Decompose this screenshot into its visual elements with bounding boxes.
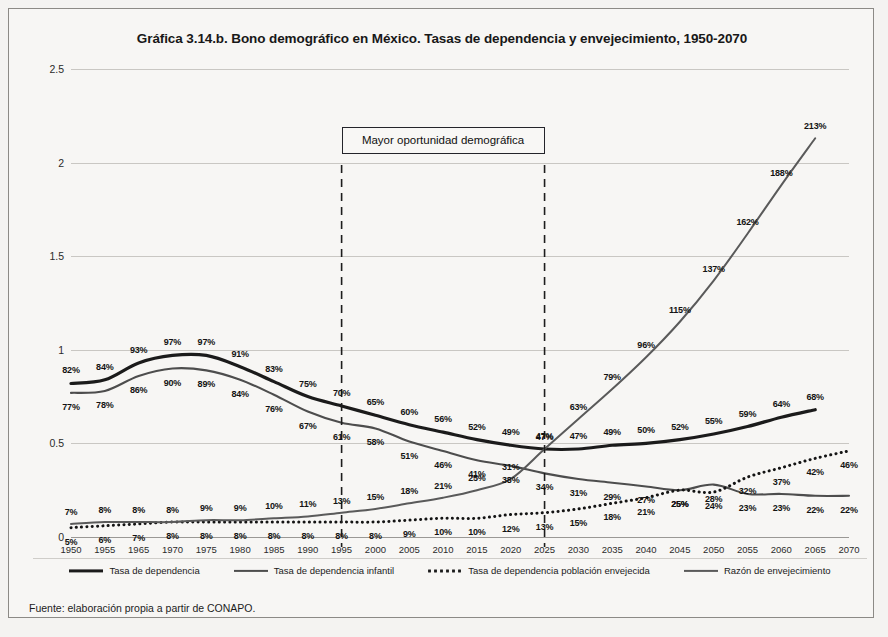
data-point-label: 67%: [299, 421, 316, 431]
data-point-label: 18%: [603, 512, 620, 522]
data-point-label: 37%: [773, 477, 790, 487]
data-point-label: 13%: [333, 496, 350, 506]
data-point-label: 96%: [637, 340, 654, 350]
y-axis-tick-label: 0.5: [49, 437, 64, 449]
data-point-label: 188%: [770, 168, 792, 178]
data-point-label: 82%: [62, 365, 79, 375]
data-point-label: 49%: [502, 427, 519, 437]
figure-frame: Gráfica 3.14.b. Bono demográfico en Méxi…: [8, 8, 874, 618]
source-note: Fuente: elaboración propia a partir de C…: [29, 602, 255, 614]
chart-legend: Tasa de dependenciaTasa de dependencia i…: [17, 565, 883, 576]
data-point-label: 12%: [502, 524, 519, 534]
gridline: [71, 537, 849, 538]
y-axis-tick-label: 1: [58, 344, 64, 356]
data-point-label: 97%: [198, 337, 215, 347]
data-point-label: 8%: [99, 505, 112, 515]
legend-divider: [33, 558, 867, 559]
data-point-label: 65%: [367, 397, 384, 407]
data-point-label: 8%: [234, 531, 247, 541]
data-point-label: 89%: [198, 379, 215, 389]
data-point-label: 93%: [130, 345, 147, 355]
y-axis-tick-label: 2: [58, 157, 64, 169]
data-point-label: 9%: [200, 503, 213, 513]
data-point-label: 10%: [468, 527, 485, 537]
data-point-label: 10%: [265, 501, 282, 511]
data-point-label: 42%: [806, 467, 823, 477]
data-point-label: 29%: [603, 492, 620, 502]
data-point-label: 55%: [705, 416, 722, 426]
data-point-label: 21%: [434, 481, 451, 491]
annotation-box: Mayor oportunidad demográfica: [342, 127, 545, 154]
data-point-label: 7%: [65, 507, 78, 517]
data-point-label: 64%: [773, 399, 790, 409]
x-axis-tick-label: 2000: [365, 544, 386, 555]
data-point-label: 25%: [468, 473, 485, 483]
data-point-label: 18%: [401, 486, 418, 496]
chart-title: Gráfica 3.14.b. Bono demográfico en Méxi…: [9, 31, 875, 46]
x-axis-tick-label: 1955: [94, 544, 115, 555]
data-point-label: 84%: [96, 362, 113, 372]
data-point-label: 84%: [231, 389, 248, 399]
legend-swatch-icon: [69, 566, 103, 576]
data-point-label: 59%: [739, 409, 756, 419]
data-point-label: 137%: [703, 264, 725, 274]
data-point-label: 46%: [840, 460, 857, 470]
legend-swatch-icon: [684, 566, 718, 576]
data-point-label: 86%: [130, 385, 147, 395]
data-point-label: 75%: [299, 379, 316, 389]
data-point-label: 8%: [200, 531, 213, 541]
legend-item-label: Tasa de dependencia población envejecida: [468, 565, 650, 576]
data-point-label: 46%: [434, 460, 451, 470]
legend-swatch-icon: [234, 566, 268, 576]
x-axis-tick-label: 2015: [466, 544, 487, 555]
legend-item-label: Razón de envejecimiento: [724, 565, 831, 576]
x-axis-tick-label: 2055: [737, 544, 758, 555]
data-point-label: 34%: [536, 482, 553, 492]
data-point-label: 8%: [268, 531, 281, 541]
data-point-label: 8%: [132, 505, 145, 515]
x-axis-tick-label: 2040: [635, 544, 656, 555]
data-point-label: 31%: [502, 462, 519, 472]
x-axis-tick-label: 1985: [263, 544, 284, 555]
x-axis-tick-label: 2060: [771, 544, 792, 555]
data-point-label: 90%: [164, 378, 181, 388]
data-point-label: 21%: [637, 507, 654, 517]
data-point-label: 47%: [536, 432, 553, 442]
x-axis-tick-label: 2065: [805, 544, 826, 555]
x-axis-tick-label: 1965: [128, 544, 149, 555]
data-point-label: 9%: [403, 529, 416, 539]
data-point-label: 38%: [502, 475, 519, 485]
data-point-label: 213%: [804, 121, 826, 131]
data-point-label: 162%: [736, 217, 758, 227]
x-axis-tick-label: 2020: [500, 544, 521, 555]
data-point-label: 61%: [333, 432, 350, 442]
data-point-label: 60%: [401, 407, 418, 417]
data-point-label: 91%: [231, 349, 248, 359]
data-point-label: 78%: [96, 400, 113, 410]
data-point-label: 10%: [434, 527, 451, 537]
data-point-label: 70%: [333, 388, 350, 398]
legend-item-label: Tasa de dependencia infantil: [274, 565, 394, 576]
legend-item[interactable]: Razón de envejecimiento: [684, 565, 831, 576]
x-axis-tick-label: 2030: [568, 544, 589, 555]
x-axis-tick-label: 1990: [297, 544, 318, 555]
data-point-label: 47%: [570, 431, 587, 441]
data-point-label: 6%: [99, 535, 112, 545]
legend-item[interactable]: Tasa de dependencia: [69, 565, 199, 576]
data-point-label: 76%: [265, 404, 282, 414]
x-axis-tick-label: 2050: [703, 544, 724, 555]
data-point-label: 24%: [705, 501, 722, 511]
data-point-label: 5%: [65, 537, 78, 547]
x-axis-tick-label: 2010: [433, 544, 454, 555]
data-point-label: 32%: [739, 486, 756, 496]
legend-item[interactable]: Tasa de dependencia población envejecida: [428, 565, 650, 576]
y-axis-tick-label: 1.5: [49, 250, 64, 262]
legend-item[interactable]: Tasa de dependencia infantil: [234, 565, 394, 576]
data-point-label: 31%: [570, 488, 587, 498]
data-point-label: 27%: [637, 495, 654, 505]
data-point-label: 8%: [166, 505, 179, 515]
x-axis-tick-label: 2070: [838, 544, 859, 555]
x-axis-tick-label: 2045: [669, 544, 690, 555]
data-point-label: 13%: [536, 522, 553, 532]
data-point-label: 79%: [603, 372, 620, 382]
